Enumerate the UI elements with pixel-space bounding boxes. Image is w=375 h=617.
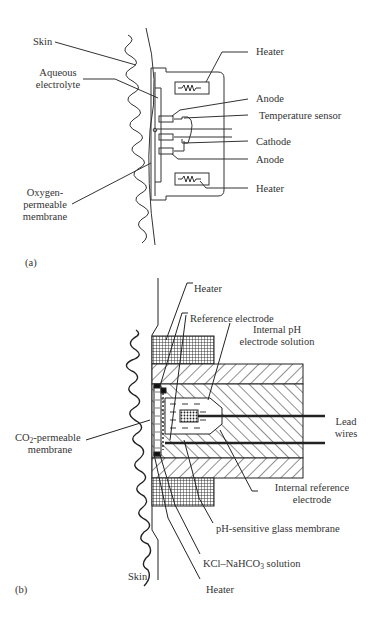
label-temperature-sensor: Temperature sensor — [259, 110, 341, 122]
label-anode-bottom: Anode — [256, 154, 284, 166]
label-ph-glass-membrane: pH-sensitive glass membrane — [216, 523, 340, 535]
label-internal-reference-line2: electrode — [264, 494, 360, 506]
panel-a-tag: (a) — [25, 257, 37, 269]
skin-surface-a — [125, 35, 149, 243]
label-aqueous-electrolyte-line1: Aqueous — [32, 67, 84, 79]
label-skin-b: Skin — [128, 571, 147, 583]
label-aqueous-electrolyte-line2: electrolyte — [32, 79, 84, 91]
label-internal-ph-line1: Internal pH — [232, 324, 322, 336]
label-oxygen-membrane-line3: membrane — [20, 211, 70, 223]
label-heater-bottom-b: Heater — [206, 584, 234, 596]
label-oxygen-membrane-line1: Oxygen- — [20, 187, 70, 199]
label-heater-bottom-a: Heater — [256, 183, 284, 195]
label-internal-reference-line1: Internal reference — [264, 482, 360, 494]
panel-b-tag: (b) — [15, 584, 27, 596]
label-lead-wires-line1: Lead — [328, 416, 364, 428]
label-heater-top-a: Heater — [256, 46, 284, 58]
label-oxygen-membrane-line2: permeable — [20, 199, 70, 211]
label-anode-top: Anode — [256, 93, 284, 105]
label-cathode: Cathode — [256, 136, 291, 148]
label-co2-membrane-line2: membrane — [15, 444, 85, 456]
panel-a-drawing — [55, 28, 248, 245]
label-lead-wires-line2: wires — [328, 428, 364, 440]
label-kcl-solution: KCl–NaHCO3 solution — [203, 558, 300, 573]
label-heater-top-b: Heater — [194, 283, 222, 295]
label-internal-ph-line2: electrode solution — [232, 336, 322, 348]
label-skin-a: Skin — [33, 36, 52, 48]
